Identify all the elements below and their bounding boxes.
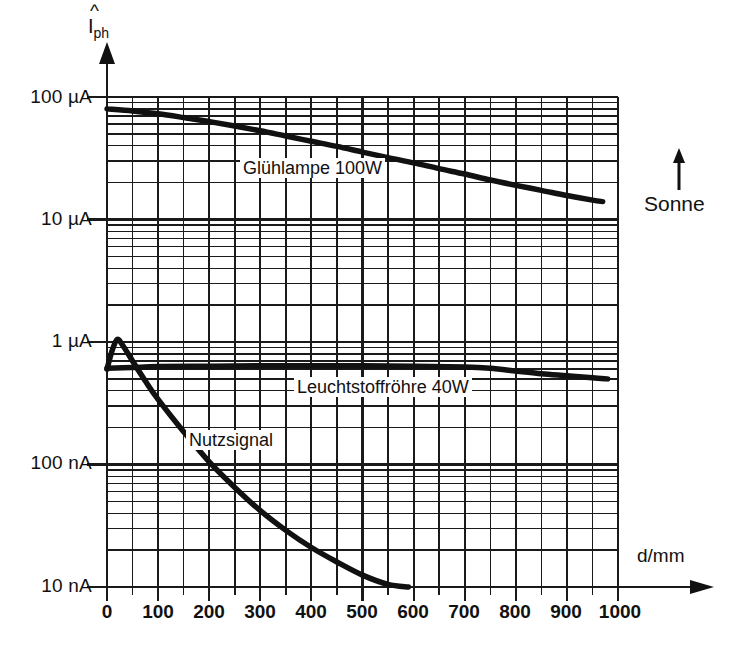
x-tick-label-300: 300 (240, 601, 280, 623)
x-tick-label-800: 800 (495, 601, 535, 623)
y-tick-label-1ua: 1 µA (6, 330, 92, 352)
sonne-arrow-head (673, 148, 685, 163)
x-tick-label-0: 0 (87, 601, 127, 623)
curve-gluehlampe (107, 109, 603, 202)
y-tick-label-10ua: 10 µA (6, 208, 92, 230)
y-axis-arrow (99, 42, 115, 64)
curve-label-nutzsignal: Nutzsignal (186, 430, 276, 450)
x-tick-label-900: 900 (546, 601, 586, 623)
x-tick-label-1000: 1000 (595, 601, 645, 623)
x-tick-label-100: 100 (138, 601, 178, 623)
y-tick-label-100ua: 100 µA (6, 86, 92, 108)
x-tick-label-400: 400 (291, 601, 331, 623)
y-axis-title: ^ Iph (88, 16, 109, 40)
x-tick-label-500: 500 (342, 601, 382, 623)
x-axis-arrow (690, 580, 714, 594)
x-axis-title: d/mm (637, 545, 685, 567)
x-tick-label-200: 200 (189, 601, 229, 623)
y-tick-label-100na: 100 nA (6, 452, 92, 474)
y-tick-label-10na: 10 nA (6, 575, 92, 597)
x-tick-label-600: 600 (393, 601, 433, 623)
chart-canvas (0, 0, 744, 658)
curve-label-leuchtstoffroehre: Leuchtstoffröhre 40W (294, 377, 472, 397)
chart-figure: ^ Iph 100 µA 10 µA 1 µA 100 nA 10 nA 0 1… (0, 0, 744, 658)
circumflex-accent: ^ (90, 1, 99, 20)
sonne-label: Sonne (644, 192, 705, 216)
curve-label-gluehlampe: Glühlampe 100W (240, 158, 385, 178)
y-axis-title-subscript: ph (94, 25, 110, 41)
x-tick-label-700: 700 (444, 601, 484, 623)
